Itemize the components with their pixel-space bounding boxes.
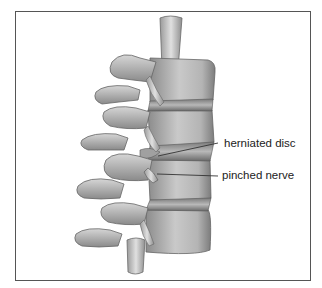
label-pinched-nerve: pinched nerve [222,169,294,182]
label-herniated-disc: herniated disc [224,137,296,150]
